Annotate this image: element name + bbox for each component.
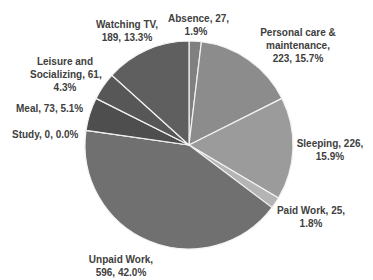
label-personal-care: Personal care & maintenance, 223, 15.7%: [250, 26, 346, 65]
label-leisure: Leisure and Socializing, 61, 4.3%: [30, 55, 100, 94]
pie-slices: [85, 41, 293, 249]
label-study: Study, 0, 0.0%: [12, 128, 84, 141]
label-meal: Meal, 73, 5.1%: [16, 102, 88, 115]
label-sleeping: Sleeping, 226, 15.9%: [296, 137, 364, 163]
label-watching-tv: Watching TV, 189, 13.3%: [96, 18, 158, 44]
label-paid-work: Paid Work, 25, 1.8%: [276, 204, 346, 230]
label-unpaid-work: Unpaid Work, 596, 42.0%: [86, 253, 156, 279]
label-absence: Absence, 27, 1.9%: [168, 12, 224, 38]
